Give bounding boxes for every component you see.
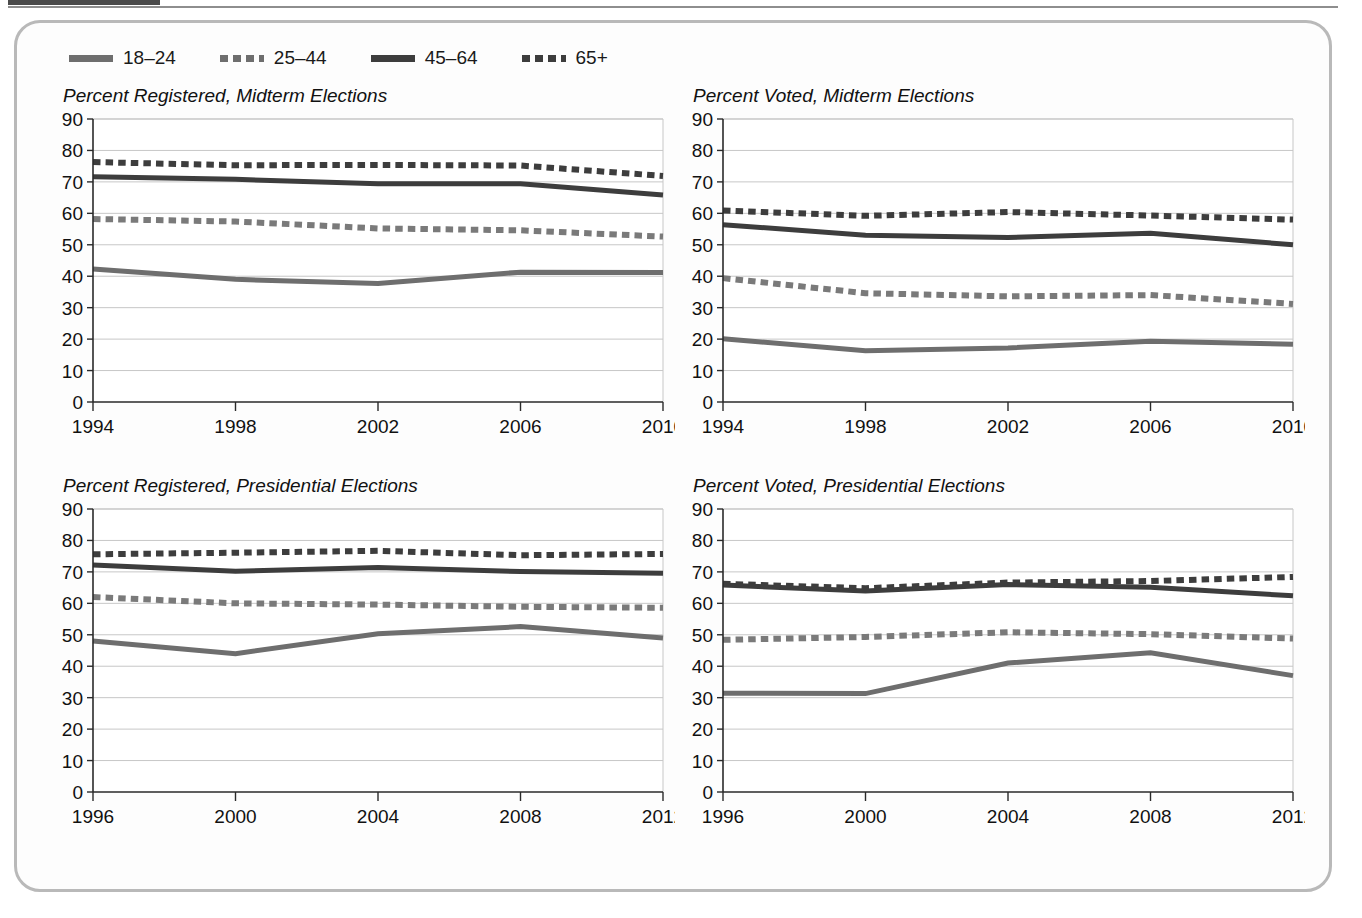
y-tick-label: 40 bbox=[62, 266, 83, 287]
chart-panel-percent-registered-presidential: Percent Registered, Presidential Electio… bbox=[45, 475, 675, 835]
x-tick-label: 2004 bbox=[987, 806, 1030, 827]
y-tick-label: 80 bbox=[62, 140, 83, 161]
chart-title: Percent Registered, Midterm Elections bbox=[63, 85, 675, 107]
y-tick-label: 70 bbox=[62, 172, 83, 193]
legend-entry: 65+ bbox=[522, 47, 608, 69]
y-tick-label: 90 bbox=[692, 499, 713, 520]
x-tick-label: 2006 bbox=[1129, 416, 1171, 437]
y-tick-label: 20 bbox=[62, 329, 83, 350]
y-tick-label: 50 bbox=[692, 625, 713, 646]
chart-plot-area: 010203040506070809019962000200420082012 bbox=[675, 499, 1305, 834]
y-tick-label: 10 bbox=[62, 751, 83, 772]
x-tick-label: 1994 bbox=[702, 416, 745, 437]
x-tick-label: 2004 bbox=[357, 806, 400, 827]
chart-panel-percent-voted-presidential: Percent Voted, Presidential Elections 01… bbox=[675, 475, 1305, 835]
x-tick-label: 2008 bbox=[499, 806, 541, 827]
x-tick-label: 2012 bbox=[1272, 806, 1305, 827]
x-tick-label: 2012 bbox=[642, 806, 675, 827]
y-tick-label: 60 bbox=[692, 203, 713, 224]
y-tick-label: 50 bbox=[62, 625, 83, 646]
y-tick-label: 0 bbox=[72, 392, 83, 413]
y-tick-label: 30 bbox=[692, 688, 713, 709]
x-tick-label: 1996 bbox=[72, 806, 114, 827]
legend-swatch-icon bbox=[69, 55, 113, 62]
y-tick-label: 20 bbox=[62, 719, 83, 740]
x-tick-label: 1996 bbox=[702, 806, 744, 827]
page-top-crop-bar bbox=[8, 0, 160, 5]
line-chart-svg: 010203040506070809019941998200220062010 bbox=[45, 109, 675, 444]
y-tick-label: 60 bbox=[692, 593, 713, 614]
legend-swatch-icon bbox=[371, 55, 415, 62]
y-tick-label: 20 bbox=[692, 329, 713, 350]
y-tick-label: 30 bbox=[62, 688, 83, 709]
y-tick-label: 40 bbox=[692, 656, 713, 677]
y-tick-label: 70 bbox=[62, 562, 83, 583]
line-chart-svg: 010203040506070809019962000200420082012 bbox=[45, 499, 675, 834]
x-tick-label: 2010 bbox=[1272, 416, 1305, 437]
y-tick-label: 70 bbox=[692, 172, 713, 193]
chart-plot-area: 010203040506070809019962000200420082012 bbox=[45, 499, 675, 834]
legend-label: 18–24 bbox=[123, 47, 176, 69]
y-tick-label: 50 bbox=[62, 235, 83, 256]
y-tick-label: 0 bbox=[72, 782, 83, 803]
chart-panel-percent-registered-midterm: Percent Registered, Midterm Elections 01… bbox=[45, 85, 675, 445]
y-tick-label: 10 bbox=[62, 361, 83, 382]
x-tick-label: 2000 bbox=[214, 806, 256, 827]
chart-title: Percent Voted, Midterm Elections bbox=[693, 85, 1305, 107]
y-tick-label: 30 bbox=[692, 298, 713, 319]
legend-label: 25–44 bbox=[274, 47, 327, 69]
line-chart-svg: 010203040506070809019962000200420082012 bbox=[675, 499, 1305, 834]
x-tick-label: 1998 bbox=[214, 416, 256, 437]
y-tick-label: 90 bbox=[692, 109, 713, 130]
line-chart-svg: 010203040506070809019941998200220062010 bbox=[675, 109, 1305, 444]
y-tick-label: 0 bbox=[702, 392, 713, 413]
chart-plot-area: 010203040506070809019941998200220062010 bbox=[675, 109, 1305, 444]
legend-swatch-icon bbox=[220, 55, 264, 62]
y-tick-label: 60 bbox=[62, 593, 83, 614]
y-tick-label: 20 bbox=[692, 719, 713, 740]
chart-panel-percent-voted-midterm: Percent Voted, Midterm Elections 0102030… bbox=[675, 85, 1305, 445]
x-tick-label: 2006 bbox=[499, 416, 541, 437]
page-top-rule bbox=[8, 6, 1338, 8]
y-tick-label: 80 bbox=[692, 140, 713, 161]
legend-label: 65+ bbox=[576, 47, 608, 69]
y-tick-label: 10 bbox=[692, 361, 713, 382]
y-tick-label: 60 bbox=[62, 203, 83, 224]
y-tick-label: 90 bbox=[62, 109, 83, 130]
y-tick-label: 90 bbox=[62, 499, 83, 520]
x-tick-label: 2010 bbox=[642, 416, 675, 437]
legend-entry: 45–64 bbox=[371, 47, 478, 69]
chart-title: Percent Registered, Presidential Electio… bbox=[63, 475, 675, 497]
x-tick-label: 2002 bbox=[987, 416, 1029, 437]
y-tick-label: 40 bbox=[62, 656, 83, 677]
y-tick-label: 80 bbox=[62, 530, 83, 551]
legend-label: 45–64 bbox=[425, 47, 478, 69]
plot-background bbox=[723, 119, 1293, 402]
x-tick-label: 1994 bbox=[72, 416, 115, 437]
legend-entry: 18–24 bbox=[69, 47, 176, 69]
x-tick-label: 2002 bbox=[357, 416, 399, 437]
x-tick-label: 2000 bbox=[844, 806, 886, 827]
y-tick-label: 40 bbox=[692, 266, 713, 287]
y-tick-label: 50 bbox=[692, 235, 713, 256]
y-tick-label: 30 bbox=[62, 298, 83, 319]
chart-title: Percent Voted, Presidential Elections bbox=[693, 475, 1305, 497]
y-tick-label: 80 bbox=[692, 530, 713, 551]
legend-swatch-icon bbox=[522, 55, 566, 62]
chart-legend: 18–2425–4445–6465+ bbox=[69, 47, 608, 69]
plot-background bbox=[93, 119, 663, 402]
y-tick-label: 10 bbox=[692, 751, 713, 772]
y-tick-label: 70 bbox=[692, 562, 713, 583]
figure-panel: 18–2425–4445–6465+ Percent Registered, M… bbox=[14, 20, 1332, 892]
legend-entry: 25–44 bbox=[220, 47, 327, 69]
plot-background bbox=[723, 509, 1293, 792]
y-tick-label: 0 bbox=[702, 782, 713, 803]
x-tick-label: 1998 bbox=[844, 416, 886, 437]
chart-plot-area: 010203040506070809019941998200220062010 bbox=[45, 109, 675, 444]
x-tick-label: 2008 bbox=[1129, 806, 1171, 827]
